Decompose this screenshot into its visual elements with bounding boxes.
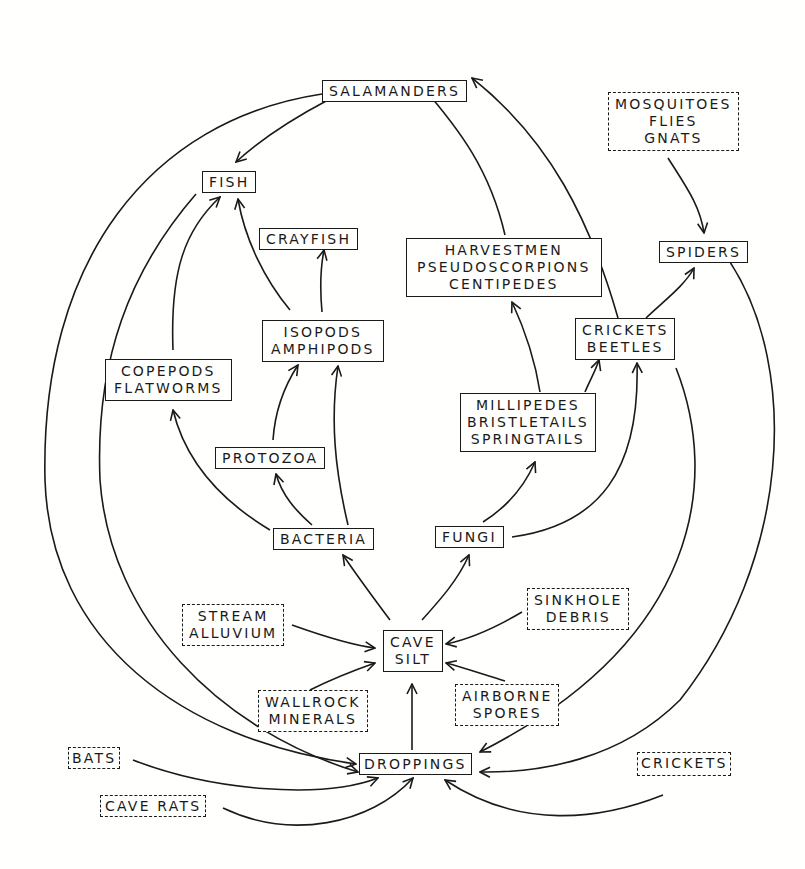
node-label: CENTIPEDES (417, 276, 591, 293)
node-label: SPORES (462, 705, 552, 722)
node-mosquitoes-flies-gnats: MOSQUITOES FLIES GNATS (608, 92, 739, 151)
node-label: BACTERIA (280, 531, 367, 548)
node-label: CAVE (390, 634, 436, 651)
node-label: SALAMANDERS (329, 83, 460, 100)
edge-crickets-ext-droppings (445, 780, 663, 816)
node-label: DEBRIS (534, 609, 622, 626)
node-label: AIRBORNE (462, 688, 552, 705)
node-droppings: DROPPINGS (359, 753, 472, 775)
node-label: MILLIPEDES (467, 397, 589, 414)
node-label: PSEUDOSCORPIONS (417, 259, 591, 276)
edge-mosquitoes-spiders (668, 158, 704, 233)
node-label: GNATS (615, 130, 732, 147)
edge-bacteria-copepods (173, 410, 270, 530)
node-spiders: SPIDERS (659, 241, 748, 263)
edge-millipedes-crickets (585, 360, 599, 392)
node-millipedes-bristletails-springtails: MILLIPEDES BRISTLETAILS SPRINGTAILS (460, 393, 596, 452)
node-label: FUNGI (442, 529, 497, 546)
node-label: MOSQUITOES (615, 96, 732, 113)
edge-silt-bacteria (343, 555, 390, 620)
node-label: DROPPINGS (364, 756, 467, 773)
node-cave-silt: CAVE SILT (383, 630, 443, 672)
edge-bats-droppings (133, 760, 378, 790)
node-bats: BATS (68, 747, 120, 769)
node-label: PROTOZOA (222, 450, 318, 467)
edge-protozoa-isopods (273, 365, 298, 440)
edge-bacteria-protozoa (276, 474, 312, 525)
node-label: AMPHIPODS (271, 341, 375, 358)
edge-isopods-crayfish (321, 250, 324, 312)
node-salamanders: SALAMANDERS (322, 80, 467, 102)
edge-copepods-fish (173, 197, 220, 350)
node-copepods-flatworms: COPEPODS FLATWORMS (105, 359, 232, 401)
edge-stream-silt (292, 625, 375, 648)
node-sinkhole-debris: SINKHOLE DEBRIS (527, 588, 629, 630)
node-bacteria: BACTERIA (273, 528, 374, 550)
edge-isopods-fish (238, 199, 290, 310)
edge-fungi-millipedes (483, 462, 535, 522)
edge-wallrock-silt (310, 663, 375, 690)
edge-salamanders-fish (236, 100, 328, 162)
edge-sinkhole-silt (446, 612, 522, 644)
node-label: CRICKETS (582, 322, 668, 339)
node-label: CRICKETS (641, 755, 727, 772)
edge-caverats-droppings (223, 778, 413, 825)
node-isopods-amphipods: ISOPODS AMPHIPODS (262, 320, 384, 362)
node-label: CAVE RATS (105, 798, 201, 815)
node-label: BATS (72, 750, 116, 767)
node-wallrock-minerals: WALLROCK MINERALS (258, 690, 368, 732)
node-stream-alluvium: STREAM ALLUVIUM (182, 604, 284, 646)
node-crickets-external: CRICKETS (637, 752, 731, 776)
edge-salamanders-droppings (45, 94, 356, 764)
node-crayfish: CRAYFISH (259, 228, 358, 250)
node-label: ISOPODS (271, 324, 375, 341)
node-label: MINERALS (265, 711, 361, 728)
node-label: COPEPODS (114, 363, 223, 380)
food-web-diagram: SALAMANDERS MOSQUITOES FLIES GNATS FISH … (0, 0, 805, 869)
node-label: SINKHOLE (534, 592, 622, 609)
node-crickets-beetles: CRICKETS BEETLES (575, 318, 675, 360)
node-label: STREAM (189, 608, 277, 625)
edge-crickets-spiders (646, 268, 694, 318)
node-label: SPIDERS (666, 244, 741, 261)
node-label: WALLROCK (265, 694, 361, 711)
node-cave-rats: CAVE RATS (100, 795, 206, 817)
node-harvestmen-pseudoscorpions-centipedes: HARVESTMEN PSEUDOSCORPIONS CENTIPEDES (406, 238, 602, 297)
node-label: SPRINGTAILS (467, 431, 589, 448)
node-label: BEETLES (582, 339, 668, 356)
node-label: HARVESTMEN (417, 242, 591, 259)
node-label: FISH (209, 174, 249, 191)
node-label: SILT (390, 651, 436, 668)
edge-harvestmen-salamanders (420, 84, 505, 235)
node-fish: FISH (202, 171, 256, 193)
node-label: CRAYFISH (266, 231, 351, 248)
edge-bacteria-isopods (334, 366, 348, 525)
node-label: FLIES (615, 113, 732, 130)
node-protozoa: PROTOZOA (215, 447, 325, 469)
edge-airborne-silt (446, 663, 505, 681)
node-label: BRISTLETAILS (467, 414, 589, 431)
node-label: ALLUVIUM (189, 625, 277, 642)
node-label: FLATWORMS (114, 380, 223, 397)
edge-millipedes-harvestmen (512, 302, 540, 392)
edge-silt-fungi (422, 555, 469, 620)
node-airborne-spores: AIRBORNE SPORES (455, 684, 559, 726)
node-fungi: FUNGI (435, 526, 504, 548)
